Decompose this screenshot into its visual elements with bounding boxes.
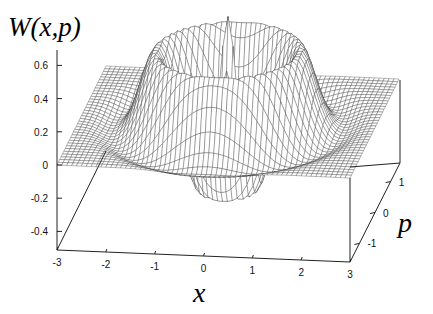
x-tick-label: 3 (347, 269, 353, 280)
z-tick-label: -0.4 (31, 226, 49, 237)
wigner-surface-plot: 0.60.40.20-0.2-0.4 -3-2-10123 -101 W(x,p… (0, 0, 433, 314)
surface-mesh (57, 17, 399, 202)
z-axis-title: W(x,p) (8, 12, 81, 42)
p-tick-label: 1 (399, 177, 405, 188)
z-tick-label: 0 (42, 160, 48, 171)
floor-back-edge-right (350, 163, 400, 167)
x-axis-title: x (192, 277, 206, 308)
x-tick-label: -1 (150, 261, 159, 272)
p-tick-label: -1 (367, 238, 376, 249)
x-tick-label: 2 (298, 267, 304, 278)
z-tick-label: 0.2 (34, 127, 48, 138)
x-tick-label: -3 (53, 257, 62, 268)
p-tick-label: 0 (383, 208, 389, 219)
x-tick-label: -2 (101, 259, 110, 270)
z-tick-label: -0.2 (31, 193, 49, 204)
x-tick-label: 0 (201, 263, 207, 274)
z-tick-label: 0.6 (34, 60, 48, 71)
z-tick-label: 0.4 (34, 94, 48, 105)
x-tick-label: 1 (250, 265, 256, 276)
p-axis-title: p (396, 207, 412, 238)
